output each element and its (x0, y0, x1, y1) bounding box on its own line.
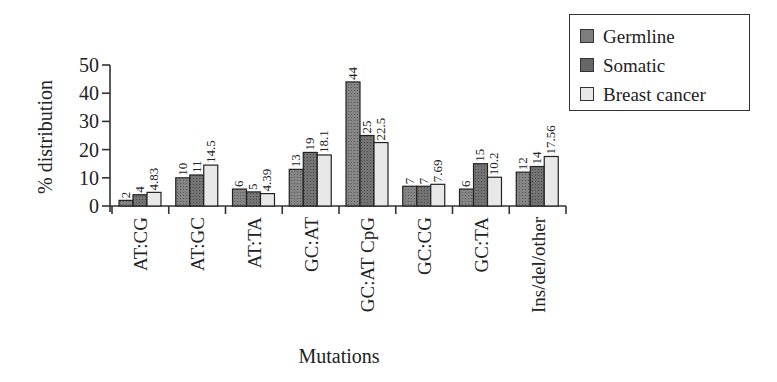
bar-germline (119, 200, 133, 206)
bar-value-label: 14 (529, 151, 544, 165)
bar-value-label: 15 (473, 149, 488, 162)
bar-value-label: 18.1 (316, 130, 331, 153)
bar-germline (403, 186, 417, 206)
bar-somatic (360, 136, 374, 207)
bar-breast-cancer (374, 143, 388, 206)
y-tick-label: 40 (79, 82, 99, 104)
bar-somatic (303, 152, 317, 206)
bar-value-label: 2 (118, 192, 133, 199)
bar-value-label: 6 (232, 180, 247, 187)
bar-somatic (247, 192, 261, 206)
bar-germline (460, 189, 474, 206)
category-label: AT:TA (244, 217, 265, 269)
y-tick-label: 20 (79, 139, 99, 161)
legend-item-somatic: Somatic (580, 52, 665, 78)
bar-value-label: 11 (189, 160, 204, 173)
bar-value-label: 6 (459, 180, 474, 187)
bar-value-label: 13 (288, 154, 303, 167)
breast-cancer-swatch-icon (580, 87, 594, 101)
bar-value-label: 5 (246, 183, 261, 190)
y-tick-label: 30 (79, 110, 99, 132)
category-label: Ins/del/other (528, 216, 549, 313)
y-tick-label: 0 (89, 195, 99, 217)
bar-somatic (417, 186, 431, 206)
legend-item-germline: Germline (580, 23, 675, 49)
bar-value-label: 4 (132, 186, 147, 193)
bar-value-label: 44 (345, 66, 360, 80)
legend: Germline Somatic Breast cancer (569, 14, 750, 111)
bar-germline (289, 169, 303, 206)
bar-value-label: 7.69 (430, 160, 445, 183)
x-axis (110, 206, 566, 214)
bar-value-label: 22.5 (373, 118, 388, 141)
somatic-swatch-icon (580, 58, 594, 72)
bar-value-label: 10.2 (487, 152, 502, 175)
bar-breast-cancer (261, 194, 275, 206)
category-labels: AT:CGAT:GCAT:TAGC:ATGC:AT CpGGC:CGGC:TAI… (130, 216, 548, 313)
category-label: AT:GC (187, 217, 208, 271)
bar-value-label: 7 (416, 177, 431, 184)
category-label: GC:AT CpG (357, 217, 378, 312)
bar-germline (233, 189, 247, 206)
bar-somatic (474, 164, 488, 206)
legend-label: Germline (603, 27, 675, 46)
bar-somatic (133, 195, 147, 206)
bar-breast-cancer (147, 192, 161, 206)
y-tick-label: 50 (79, 54, 99, 76)
bar-value-label: 19 (302, 137, 317, 150)
bar-somatic (190, 175, 204, 206)
category-label: GC:CG (414, 217, 435, 275)
bar-value-label: 4.83 (146, 168, 161, 191)
bar-somatic (530, 167, 544, 206)
bar-germline (346, 82, 360, 206)
legend-item-breast-cancer: Breast cancer (580, 81, 706, 107)
category-label: AT:CG (130, 217, 151, 271)
bar-value-label: 4.39 (260, 169, 275, 192)
bar-value-label: 12 (515, 157, 530, 170)
y-axis: 01020304050 (79, 54, 110, 217)
legend-label: Breast cancer (603, 85, 706, 104)
legend-label: Somatic (603, 56, 665, 75)
germline-swatch-icon (580, 29, 594, 43)
bar-breast-cancer (317, 155, 331, 206)
bar-breast-cancer (488, 177, 502, 206)
category-label: GC:TA (471, 217, 492, 273)
bar-germline (176, 178, 190, 206)
bar-value-label: 14.5 (203, 140, 218, 163)
x-axis-label: Mutations (298, 345, 379, 367)
bars (119, 82, 558, 206)
y-tick-label: 10 (79, 167, 99, 189)
category-label: GC:AT (301, 217, 322, 272)
bar-breast-cancer (204, 165, 218, 206)
bar-germline (516, 172, 530, 206)
bar-breast-cancer (544, 156, 558, 206)
y-axis-label: % distribution (34, 80, 56, 194)
bar-value-label: 7 (402, 177, 417, 184)
bar-value-label: 25 (359, 121, 374, 134)
bar-value-label: 17.56 (543, 125, 558, 155)
bar-breast-cancer (431, 184, 445, 206)
bar-value-label: 10 (175, 163, 190, 176)
